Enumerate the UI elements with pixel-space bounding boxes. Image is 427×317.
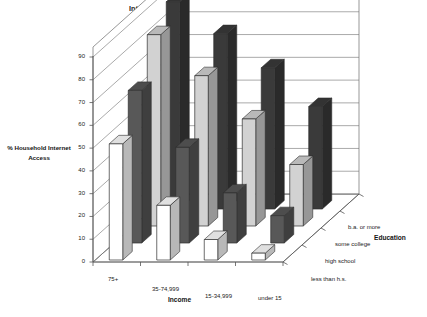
y-tick-label: 70 [67,99,85,105]
y-tick-label: 60 [67,121,85,127]
y-tick-label: 20 [67,212,85,218]
x-category-label: 15-34,999 [205,293,232,299]
bar [109,135,132,260]
x-category-label: 35-74,999 [152,286,179,292]
y-tick-label: 90 [67,53,85,59]
x-category-label: under 15 [258,295,282,301]
y-tick-label: 0 [67,258,85,264]
x-category-label: 75+ [108,276,118,282]
y-tick-label: 80 [67,76,85,82]
bar [271,207,294,243]
y-tick-label: 50 [67,144,85,150]
bar [157,197,180,260]
z-category-label: some college [335,241,370,247]
z-axis-title: Education [374,234,406,241]
x-axis [93,262,283,266]
z-category-label: less than h.s. [311,276,346,282]
z-category-label: high school [325,258,355,264]
z-category-label: b.a. or more [348,224,380,230]
y-axis [90,56,94,262]
y-tick-label: 30 [67,190,85,196]
plot-area [0,0,427,317]
y-tick-label: 40 [67,167,85,173]
x-axis-title: Income [168,296,191,303]
chart-container: Internet Access by Income and Education,… [0,0,427,317]
y-tick-label: 10 [67,235,85,241]
